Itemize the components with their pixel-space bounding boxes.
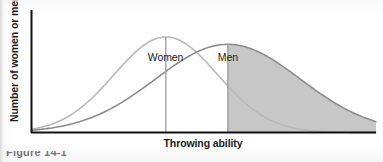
x-axis-label: Throwing ability xyxy=(31,137,375,149)
men-shaded-area xyxy=(32,44,377,132)
figure-page: Number of women or men Throwing ability … xyxy=(0,0,383,162)
figure-caption: Figure 14-1 xyxy=(6,151,67,158)
y-axis-label: Number of women or men xyxy=(8,2,20,122)
men-curve-label: Men xyxy=(218,51,238,63)
distribution-chart: Number of women or men Throwing ability … xyxy=(0,0,383,162)
figure-caption-strip: Figure 14-1 xyxy=(0,151,383,162)
women-curve-label: Women xyxy=(148,51,184,63)
